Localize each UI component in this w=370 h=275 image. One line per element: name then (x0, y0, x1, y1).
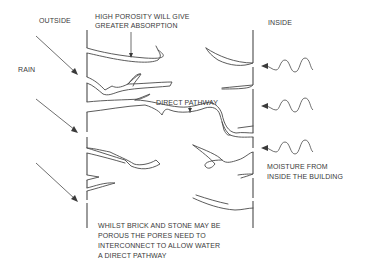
rain-arrows (36, 36, 78, 202)
direct-pathway-label: DIRECT PATHWAY (156, 98, 218, 107)
outside-label: OUTSIDE (39, 16, 71, 25)
moisture-label-line1: MOISTURE FROM (267, 162, 328, 171)
wall-moisture-diagram: OUTSIDE INSIDE RAIN HIGH POROSITY WILL G… (0, 0, 370, 275)
note-line2: POROUS THE PORES NEED TO (98, 231, 206, 240)
pores-inside (193, 48, 253, 210)
note-line1: WHILST BRICK AND STONE MAY BE (98, 221, 221, 230)
note-line4: A DIRECT PATHWAY (98, 251, 167, 260)
high-porosity-label-line1: HIGH POROSITY WILL GIVE (95, 12, 190, 21)
inside-label: INSIDE (268, 18, 292, 27)
moisture-label-line2: INSIDE THE BUILDING (267, 172, 343, 181)
pores-outside (87, 46, 253, 191)
high-porosity-label-line2: GREATER ABSORPTION (95, 21, 178, 30)
moisture-wave-arrows (261, 58, 313, 154)
rain-label: RAIN (18, 65, 35, 74)
note-line3: INTERCONNECT TO ALLOW WATER (98, 241, 220, 250)
